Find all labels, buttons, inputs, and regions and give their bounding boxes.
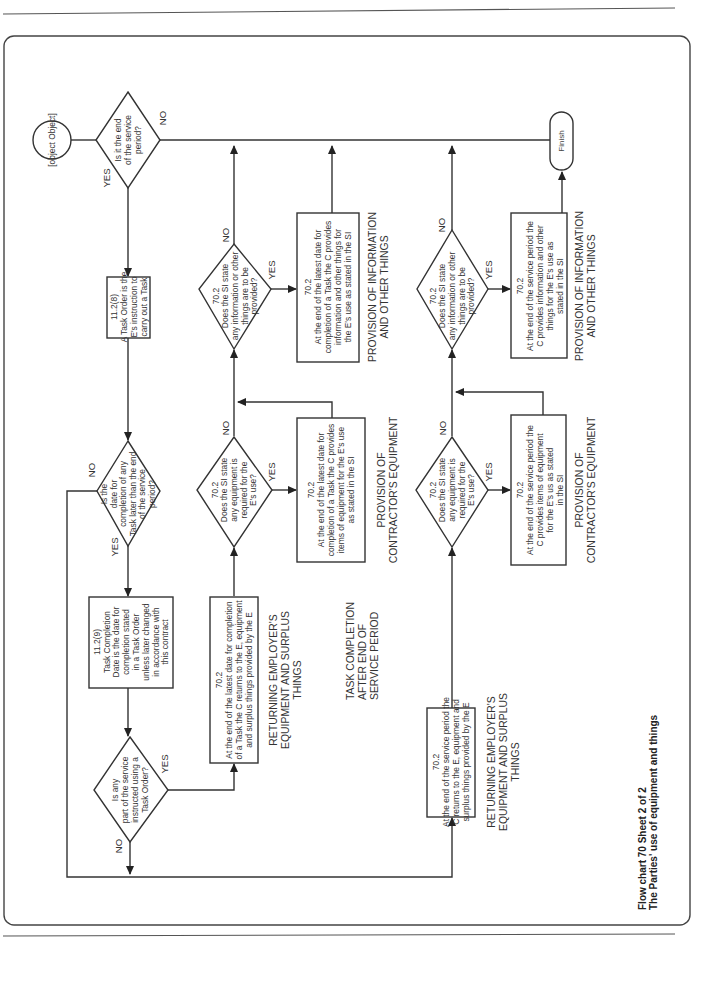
text-info-period-q-line: any information or other [447, 252, 457, 341]
text-info-period-q-line: provided? [466, 277, 476, 314]
text-info-period-line: 70.2 [515, 278, 525, 295]
top-rule [3, 8, 675, 14]
text-info-task-line: completion of a Task the C provides [323, 221, 333, 354]
text-end-service-line: of the service [123, 115, 133, 165]
connector-sheet1-text: [object Object] [47, 113, 57, 167]
text-info-period-line: C provides information and other [535, 225, 545, 347]
text-any-part-line: part of the service [120, 756, 130, 823]
text-equip-period-line: for the E's us as stated [545, 447, 555, 532]
text-equip-task-q-line: Does the SI state [219, 458, 229, 523]
text-equip-period-q-line: Does the SI state [437, 458, 447, 523]
text-equip-task-q-line: 70.2 [210, 482, 220, 499]
text-equip-period-q-line: E's use? [466, 474, 476, 506]
text-equip-task-q-line: any equipment is [229, 458, 239, 521]
text-return-period-line: surplus things provided by the E [461, 702, 471, 822]
heading-returning-period-line: RETURNING EMPLOYER'S [486, 696, 497, 827]
text-equip-period-line: C provides items of equipment [535, 433, 545, 547]
heading-provision-equip-task-line: PROVISION OF [376, 452, 387, 527]
text-equip-task-line: as stated in the SI [346, 456, 356, 523]
text-date-later-line: completion of any [118, 460, 128, 526]
text-equip-period-q-line: required for the [457, 461, 467, 518]
label-yes-any-part: YES [159, 754, 170, 773]
heading-returning-period-line: EQUIPMENT AND SURPLUS [498, 693, 509, 831]
heading-task-completion-after: TASK COMPLETIONAFTER END OFSERVICE PERIO… [345, 602, 380, 700]
text-return-task-line: 70.2 [214, 672, 224, 689]
text-return-period-line: 70.2 [431, 754, 441, 771]
heading-provision-equip-task-line: CONTRACTOR'S EQUIPMENT [388, 416, 399, 563]
label-no-equip-period: NO [437, 421, 448, 435]
flowchart: [object Object]FinishIs it the endof the… [0, 0, 710, 981]
caption-subtitle: The Parties' use of equipment and things [648, 714, 659, 910]
heading-returning-task-line: RETURNING EMPLOYER'S [268, 614, 279, 745]
text-equip-period-line: in the SI [555, 475, 565, 506]
text-11-2-9: 11.2(9)Task CompletionDate is the date f… [92, 603, 171, 681]
heading-returning-task-line: THINGS [292, 660, 303, 699]
text-date-later-line: period? [147, 480, 157, 508]
text-11-2-9-line: unless later changed [141, 603, 151, 681]
heading-provision-equip-period: PROVISION OFCONTRACTOR'S EQUIPMENT [574, 416, 597, 563]
text-return-period-line: C returns to the E, equipment and [451, 699, 461, 825]
heading-provision-equip-period-line: PROVISION OF [574, 452, 585, 527]
label-no-date-later: NO [86, 463, 97, 477]
caption-title: Flow chart 70 Sheet 2 of 2 [637, 787, 648, 910]
heading-provision-info-period-line: AND OTHER THINGS [586, 234, 597, 337]
heading-provision-equip-task: PROVISION OFCONTRACTOR'S EQUIPMENT [376, 416, 399, 563]
text-equip-task-line: completion of a Task the C provides [326, 424, 336, 557]
text-info-period-q-line: things are to be [457, 267, 467, 325]
text-date-later-line: Task later than the end [128, 451, 138, 536]
text-info-task-q-line: 70.2 [211, 288, 221, 305]
label-no-info-task: NO [220, 228, 231, 242]
label-yes-info-period: YES [483, 260, 494, 279]
label-yes-equip-task: YES [266, 462, 277, 481]
text-11-2-8-line: A Task Order is the [119, 271, 129, 342]
heading-provision-info-task-line: AND OTHER THINGS [379, 235, 390, 338]
label-no-info-period: NO [436, 218, 447, 232]
finish-text: Finish [557, 130, 566, 151]
text-11-2-9-line: Date is the date for [111, 606, 121, 677]
text-any-part-line: Is any [110, 778, 120, 801]
text-info-period-line: At the end of the service period the [525, 221, 535, 351]
text-11-2-9-line: completion stated [121, 609, 131, 675]
text-return-task-line: At the end of the latest date for comple… [224, 601, 234, 759]
heading-provision-info-period: PROVISION OF INFORMATIONAND OTHER THINGS [574, 211, 597, 361]
heading-provision-info-task-line: PROVISION OF INFORMATION [367, 212, 378, 362]
heading-returning-task: RETURNING EMPLOYER'SEQUIPMENT AND SURPLU… [268, 611, 303, 749]
text-info-task-line: information and other things for [333, 229, 343, 345]
label-yes-end-service: YES [101, 168, 112, 187]
label-no-any-part: NO [113, 839, 124, 853]
text-equip-period-line: At the end of the service period the [525, 425, 535, 555]
text-any-part-line: instructed using a [130, 757, 140, 823]
text-info-period-line: things for the E's use as [545, 241, 555, 330]
heading-task-completion-after-line: TASK COMPLETION [345, 602, 356, 700]
connector-sheet1-text-line: [object Object] [47, 113, 57, 167]
bottom-rule [3, 934, 675, 936]
heading-task-completion-after-line: AFTER END OF [357, 624, 368, 700]
text-info-period-q-line: 70.2 [428, 288, 438, 305]
heading-task-completion-after-line: SERVICE PERIOD [369, 612, 380, 700]
label-no-end-service: NO [157, 111, 168, 125]
text-equip-period-q-line: any equipment is [447, 458, 457, 521]
text-return-task-line: of a Task the C returns to the E, equipm… [234, 600, 244, 760]
text-info-task-line: the E's use as stated in the SI [343, 232, 353, 343]
text-equip-task-line: 70.2 [306, 482, 316, 499]
heading-returning-task-line: EQUIPMENT AND SURPLUS [280, 611, 291, 749]
text-info-task-line: At the end of the latest date for [313, 230, 323, 345]
text-info-period-q-line: Does the SI state [437, 264, 447, 329]
text-end-service-line: period? [133, 126, 143, 154]
finish-text-line: Finish [557, 130, 566, 151]
text-info-period-line: stated in the SI [555, 258, 565, 314]
label-yes-date-later: YES [109, 537, 120, 556]
text-info-task-q-line: provided? [249, 277, 259, 314]
text-date-later-line: of the service [137, 469, 147, 519]
text-date-later-line: Is the [99, 483, 109, 504]
text-11-2-9-line: 11.2(9) [92, 629, 102, 655]
text-11-2-9-line: this contract [160, 619, 170, 665]
label-yes-info-task: YES [266, 260, 277, 279]
text-11-2-9-line: in accordance with [151, 607, 161, 677]
heading-provision-equip-period-line: CONTRACTOR'S EQUIPMENT [586, 416, 597, 563]
text-date-later-line: date for [109, 480, 119, 509]
text-any-part-line: Task Order? [140, 767, 150, 813]
text-equip-period-line: 70.2 [515, 482, 525, 499]
label-yes-equip-period: YES [483, 462, 494, 481]
heading-returning-period: RETURNING EMPLOYER'SEQUIPMENT AND SURPLU… [486, 693, 521, 831]
